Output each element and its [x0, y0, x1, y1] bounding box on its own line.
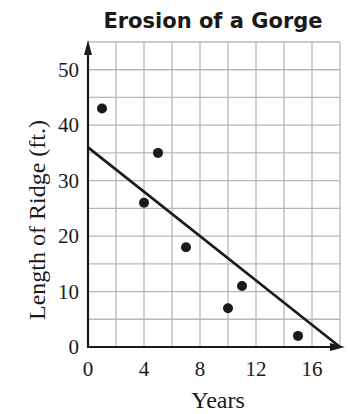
y-tick-label: 20: [58, 224, 79, 248]
data-point: [223, 303, 233, 313]
grid-lines: [88, 42, 340, 347]
y-tick-label: 40: [58, 113, 79, 137]
scatter-chart: Erosion of a Gorge 0481216 01020304050 Y…: [0, 0, 350, 414]
x-tick-labels: 0481216: [83, 357, 323, 381]
x-tick-label: 12: [246, 357, 267, 381]
data-point: [139, 198, 149, 208]
y-tick-label: 30: [58, 169, 79, 193]
data-point: [97, 104, 107, 114]
y-tick-label: 0: [69, 335, 80, 359]
x-tick-label: 0: [83, 357, 94, 381]
x-tick-label: 16: [302, 357, 323, 381]
y-tick-labels: 01020304050: [58, 58, 79, 359]
data-point: [181, 242, 191, 252]
x-tick-label: 8: [195, 357, 206, 381]
chart-title: Erosion of a Gorge: [103, 9, 322, 33]
x-tick-label: 4: [139, 357, 150, 381]
axes: [84, 40, 345, 351]
y-axis-label: Length of Ridge (ft.): [24, 120, 50, 320]
data-point: [153, 148, 163, 158]
y-tick-label: 50: [58, 58, 79, 82]
x-axis-label: Years: [191, 387, 245, 413]
data-point: [293, 331, 303, 341]
data-point: [237, 281, 247, 291]
trend-line: [88, 147, 340, 347]
y-tick-label: 10: [58, 280, 79, 304]
trend-line-segment: [88, 147, 340, 347]
